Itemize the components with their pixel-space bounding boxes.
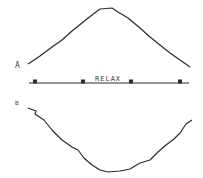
baseline-marker [33, 80, 37, 84]
baseline-marker [178, 80, 182, 84]
curve-b [28, 108, 192, 172]
relax-label: RELAX [95, 75, 121, 83]
curve-a [28, 8, 190, 67]
trace-label-a: A [15, 61, 20, 70]
baseline-marker [81, 80, 85, 84]
trace-label-b: B [15, 99, 19, 106]
chart-figure [0, 0, 203, 178]
baseline-marker [129, 80, 133, 84]
